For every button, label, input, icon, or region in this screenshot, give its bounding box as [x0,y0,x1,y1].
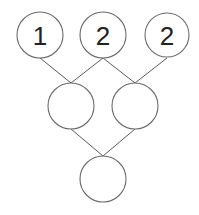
node-top-middle: 2 [80,12,126,58]
edge-top-middle-to-middle-right [103,58,135,83]
edge-middle-left-to-bottom [71,129,103,156]
tree-diagram: 1 2 2 [0,0,199,215]
node-label-top-middle: 2 [96,21,110,51]
edge-top-left-to-middle-left [40,58,71,83]
node-top-left: 1 [17,12,63,58]
edge-top-right-to-middle-right [135,58,167,83]
node-top-right: 2 [145,13,189,57]
edge-middle-right-to-bottom [103,129,135,156]
node-label-top-right: 2 [160,21,174,51]
node-label-top-left: 1 [33,21,47,51]
edge-top-middle-to-middle-left [71,58,103,83]
node-bottom [80,156,126,202]
node-middle-left [48,83,94,129]
node-middle-right [112,83,158,129]
